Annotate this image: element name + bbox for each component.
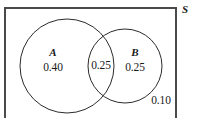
universe-label-s: S — [182, 4, 188, 15]
outside-probability: 0.10 — [151, 95, 171, 107]
venn-diagram-figure: S A 0.40 0.25 B 0.25 0.10 — [0, 0, 199, 118]
set-b-probability: 0.25 — [125, 62, 145, 74]
set-b-label: B — [131, 47, 139, 58]
set-a-probability: 0.40 — [43, 62, 63, 74]
set-a-label: A — [49, 47, 57, 58]
intersection-probability: 0.25 — [91, 60, 111, 72]
